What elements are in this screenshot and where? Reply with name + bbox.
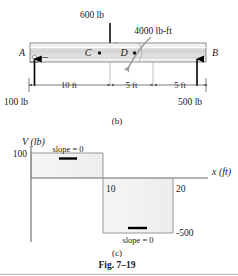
- axis-label-x: x (ft): [211, 166, 232, 178]
- point-marker-c: [98, 51, 101, 54]
- label-point-a: A: [18, 47, 26, 58]
- ytick-label-neg500: -500: [176, 228, 194, 238]
- point-load-label: 600 lb: [80, 10, 104, 20]
- dimension-label-5ft-first: 5 ft: [126, 80, 138, 90]
- label-point-d: D: [119, 47, 128, 58]
- beam-free-body-diagram: 600 lb 4000 lb-ft A B C D 10 ft 5 ft 5 f…: [4, 10, 218, 126]
- pin-support-circle-icon: [33, 55, 37, 59]
- ytick-label-100: 100: [13, 149, 28, 159]
- annotation-slope-negative: slope = 0: [122, 235, 153, 245]
- xtick-label-20: 20: [176, 184, 186, 194]
- panel-caption-b: (b): [112, 116, 123, 126]
- dimension-label-10ft: 10 ft: [61, 80, 77, 90]
- beam-rect: [30, 43, 206, 62]
- label-point-c: C: [85, 47, 92, 58]
- dimension-label-5ft-second: 5 ft: [174, 80, 186, 90]
- label-point-b: B: [212, 47, 218, 58]
- figure-number: Fig. 7–19: [99, 260, 136, 270]
- point-marker-d: [133, 51, 136, 54]
- panel-caption-c: (c): [112, 248, 122, 258]
- shear-area-positive: [31, 153, 103, 178]
- reaction-label-left: 100 lb: [4, 97, 28, 107]
- figure-canvas: 600 lb 4000 lb-ft A B C D 10 ft 5 ft 5 f…: [0, 0, 238, 276]
- annotation-slope-positive: slope = 0: [52, 144, 83, 154]
- shear-diagram: V (lb) x (ft) 100 10 20 -500 slope = 0 s…: [13, 136, 232, 258]
- couple-moment-label: 4000 lb-ft: [134, 26, 172, 36]
- beam-body: [30, 43, 206, 62]
- xtick-label-10: 10: [106, 184, 116, 194]
- figure-container: 600 lb 4000 lb-ft A B C D 10 ft 5 ft 5 f…: [0, 0, 238, 276]
- axis-label-y: V (lb): [22, 136, 46, 148]
- reaction-label-right: 500 lb: [178, 97, 202, 107]
